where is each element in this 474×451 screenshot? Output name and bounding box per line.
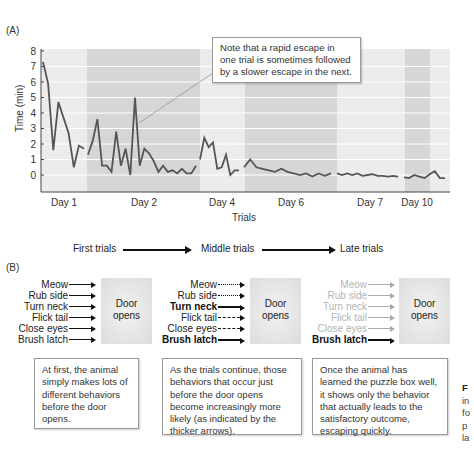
door-label-line-1: Door bbox=[399, 298, 450, 310]
arrow-icon bbox=[69, 306, 91, 307]
behavior-label: Rub side bbox=[29, 290, 68, 301]
y-axis-title: Time (min) bbox=[14, 85, 25, 132]
door-label-line-1: Door bbox=[101, 298, 152, 310]
arrow-icon bbox=[69, 295, 91, 296]
flow-middle-trials: Middle trials bbox=[201, 243, 254, 254]
behavior-label: Meow bbox=[190, 279, 217, 290]
x-axis-title: Trials bbox=[232, 212, 256, 223]
y-tick-label: 2 bbox=[30, 139, 36, 150]
behavior-label: Turn neck bbox=[170, 301, 217, 312]
behavior-row: Rub side bbox=[150, 290, 245, 301]
flow-first-trials: First trials bbox=[73, 243, 116, 254]
behavior-label: Flick tail bbox=[331, 312, 367, 323]
arrow-icon bbox=[69, 317, 91, 318]
x-day-label: Day 6 bbox=[278, 197, 305, 208]
behavior-row: Meow bbox=[0, 279, 96, 290]
behavior-label: Rub side bbox=[178, 290, 217, 301]
y-tick-label: 8 bbox=[30, 46, 36, 57]
door-opens-box-middle: Door opens bbox=[250, 278, 301, 344]
behavior-label: Rub side bbox=[328, 290, 367, 301]
behavior-row: Flick tail bbox=[300, 312, 395, 323]
door-label-line-2: opens bbox=[250, 310, 301, 322]
door-label-line-2: opens bbox=[101, 310, 152, 322]
desc-line: At first, the animal bbox=[42, 364, 138, 376]
x-day-label: Day 2 bbox=[131, 197, 158, 208]
caption-line: p bbox=[462, 420, 470, 433]
flow-arrow-1 bbox=[123, 249, 186, 251]
arrow-icon bbox=[368, 295, 390, 296]
arrow-icon bbox=[69, 328, 91, 329]
arrow-icon bbox=[368, 328, 390, 329]
behavior-row: Flick tail bbox=[150, 312, 245, 323]
behavior-label: Brush latch bbox=[18, 334, 68, 345]
caption-line: in bbox=[462, 395, 470, 408]
y-tick-label: 0 bbox=[30, 170, 36, 181]
behavior-label: Close eyes bbox=[318, 323, 367, 334]
y-tick-label: 6 bbox=[30, 77, 36, 88]
desc-line: thicker arrows). bbox=[170, 425, 301, 437]
arrow-icon bbox=[218, 306, 240, 308]
description-middle: As the trials continue, those behaviors … bbox=[162, 358, 302, 435]
behavior-row: Meow bbox=[150, 279, 245, 290]
desc-line: Once the animal has bbox=[320, 364, 447, 376]
caption-line: fo bbox=[462, 407, 470, 420]
behavior-row: Rub side bbox=[300, 290, 395, 301]
behavior-row: Rub side bbox=[0, 290, 96, 301]
desc-line: before the door bbox=[42, 401, 138, 413]
arrow-icon bbox=[218, 339, 240, 341]
behavior-row: Brush latch bbox=[300, 334, 395, 345]
arrow-icon bbox=[368, 306, 390, 307]
figure-caption-fragment: F in fo p la bbox=[462, 382, 470, 445]
door-opens-box-first: Door opens bbox=[101, 278, 152, 344]
behavior-label: Turn neck bbox=[323, 301, 367, 312]
behavior-row: Brush latch bbox=[150, 334, 245, 345]
behavior-label: Close eyes bbox=[19, 323, 68, 334]
behavior-row: Close eyes bbox=[0, 323, 96, 334]
arrow-icon bbox=[368, 284, 390, 285]
desc-line: different behaviors bbox=[42, 389, 138, 401]
stage-first-behaviors: MeowRub sideTurn neckFlick tailClose eye… bbox=[0, 279, 96, 345]
flow-late-trials: Late trials bbox=[340, 243, 383, 254]
behavior-row: Turn neck bbox=[150, 301, 245, 312]
desc-line: simply makes lots of bbox=[42, 376, 138, 388]
desc-line: learned the puzzle box well, bbox=[320, 376, 447, 388]
callout-line-2: one trial is sometimes followed bbox=[220, 54, 360, 66]
door-opens-box-late: Door opens bbox=[399, 278, 450, 344]
behavior-label: Meow bbox=[340, 279, 367, 290]
stage-middle-behaviors: MeowRub sideTurn neckFlick tailClose eye… bbox=[150, 279, 245, 345]
behavior-row: Close eyes bbox=[300, 323, 395, 334]
arrow-icon bbox=[368, 339, 390, 341]
behavior-row: Close eyes bbox=[150, 323, 245, 334]
behavior-label: Close eyes bbox=[168, 323, 217, 334]
desc-line: become increasingly more bbox=[170, 401, 301, 413]
desc-line: that actually leads to the bbox=[320, 401, 447, 413]
arrow-icon bbox=[218, 317, 240, 318]
description-late: Once the animal has learned the puzzle b… bbox=[312, 358, 448, 435]
x-day-label: Day 1 bbox=[51, 197, 78, 208]
behavior-label: Brush latch bbox=[162, 334, 217, 345]
arrow-icon bbox=[218, 284, 240, 285]
behavior-row: Turn neck bbox=[0, 301, 96, 312]
behavior-label: Flick tail bbox=[32, 312, 68, 323]
desc-line: likely (as indicated by the bbox=[170, 413, 301, 425]
arrow-icon bbox=[218, 328, 240, 329]
callout-line-3: by a slower escape in the next. bbox=[220, 66, 360, 78]
behavior-label: Flick tail bbox=[181, 312, 217, 323]
desc-line: escaping quickly. bbox=[320, 425, 447, 437]
behavior-label: Turn neck bbox=[24, 301, 68, 312]
description-first: At first, the animal simply makes lots o… bbox=[34, 358, 139, 429]
arrow-icon bbox=[218, 295, 240, 296]
door-label-line-1: Door bbox=[250, 298, 301, 310]
y-tick-label: 4 bbox=[30, 108, 36, 119]
desc-line: As the trials continue, those bbox=[170, 364, 301, 376]
day-band bbox=[430, 49, 450, 192]
panel-b-label: (B) bbox=[6, 262, 19, 273]
behavior-row: Flick tail bbox=[0, 312, 96, 323]
behavior-row: Turn neck bbox=[300, 301, 395, 312]
desc-line: behaviors that occur just bbox=[170, 376, 301, 388]
desc-line: before the door opens bbox=[170, 389, 301, 401]
y-tick-label: 5 bbox=[30, 92, 36, 103]
annotation-callout: Note that a rapid escape in one trial is… bbox=[212, 37, 361, 83]
arrow-icon bbox=[368, 317, 390, 318]
y-tick-label: 7 bbox=[30, 61, 36, 72]
